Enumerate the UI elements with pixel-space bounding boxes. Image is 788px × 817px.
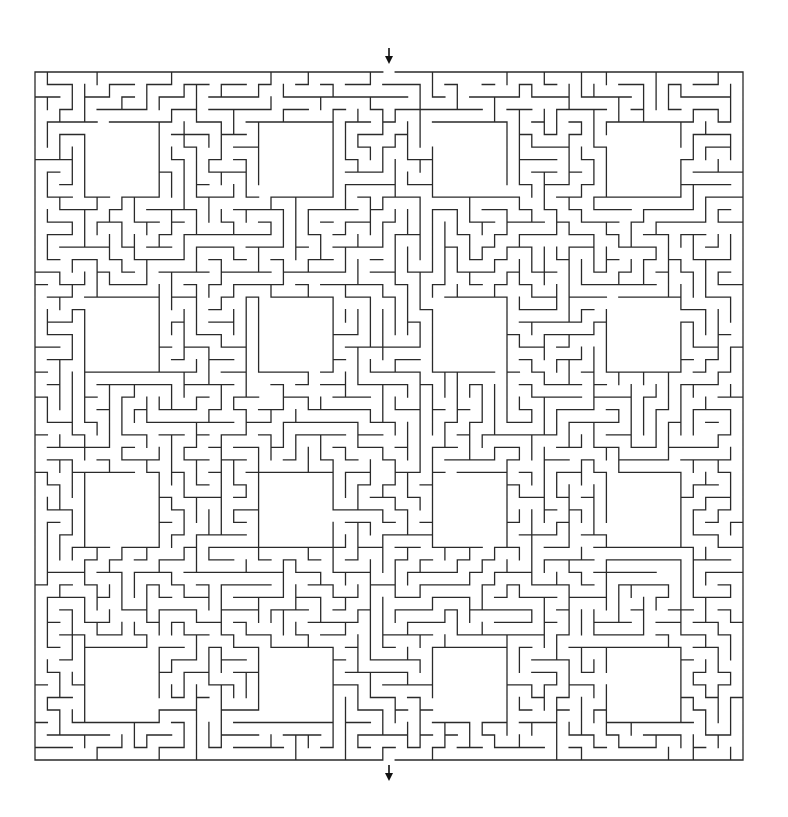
exit-arrow-icon [385, 765, 393, 781]
entrance-arrow-icon [385, 48, 393, 64]
maze-canvas[interactable] [0, 0, 788, 817]
maze-wall-paths [35, 72, 743, 760]
maze-walls [35, 72, 743, 760]
